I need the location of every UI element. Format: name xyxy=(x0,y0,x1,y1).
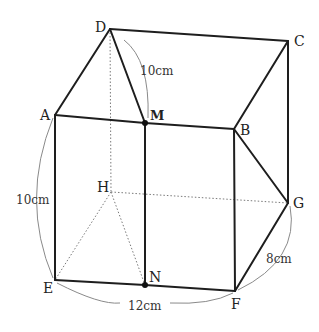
dimension-arcs xyxy=(37,40,292,303)
label-C: C xyxy=(294,33,305,49)
label-D: D xyxy=(95,19,106,35)
edge-BG xyxy=(234,129,288,203)
edge-EN xyxy=(55,280,145,285)
label-G: G xyxy=(293,195,304,211)
edge-BF xyxy=(234,129,235,291)
edge-FG xyxy=(235,203,288,291)
arc-EF-right xyxy=(170,293,233,303)
edge-DA xyxy=(55,29,110,115)
arc-FG xyxy=(238,206,291,290)
label-H: H xyxy=(97,179,109,195)
edge-NF xyxy=(145,285,235,291)
arc-EF xyxy=(57,283,120,303)
prism-diagram: D C A M B H G E N F 10cm 10cm 12cm 8cm xyxy=(0,0,319,332)
label-B: B xyxy=(240,122,250,138)
label-N: N xyxy=(149,269,161,285)
dim-EF: 12cm xyxy=(128,299,162,313)
dim-AE: 10cm xyxy=(16,193,50,207)
dim-DM: 10cm xyxy=(140,64,174,78)
label-A: A xyxy=(39,107,51,123)
edge-CB xyxy=(234,41,288,129)
edge-DH xyxy=(110,29,111,192)
label-M: M xyxy=(150,108,164,123)
edge-HG xyxy=(111,192,288,203)
point-N xyxy=(142,282,148,288)
edge-AM xyxy=(55,115,145,123)
edge-DC xyxy=(110,29,288,41)
label-F: F xyxy=(231,296,241,312)
point-M xyxy=(142,120,148,126)
vertex-labels: D C A M B H G E N F xyxy=(39,19,305,312)
dim-FG: 8cm xyxy=(266,252,292,266)
edge-MB xyxy=(145,123,234,129)
label-E: E xyxy=(43,280,53,296)
edge-HN xyxy=(111,192,145,285)
edge-HE xyxy=(55,192,111,280)
